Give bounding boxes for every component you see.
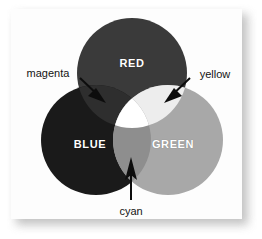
color-mixing-figure: RED BLUE GREEN magenta yellow cyan bbox=[0, 0, 262, 239]
blue-circle-label: BLUE bbox=[74, 138, 106, 150]
venn-diagram-stage: RED BLUE GREEN magenta yellow cyan bbox=[0, 0, 262, 239]
cyan-callout-label: cyan bbox=[119, 205, 142, 217]
magenta-callout-label: magenta bbox=[27, 67, 70, 79]
red-circle-label: RED bbox=[119, 57, 144, 69]
green-circle-label: GREEN bbox=[152, 138, 194, 150]
yellow-callout-label: yellow bbox=[200, 68, 231, 80]
venn-diagram-svg bbox=[0, 0, 262, 239]
